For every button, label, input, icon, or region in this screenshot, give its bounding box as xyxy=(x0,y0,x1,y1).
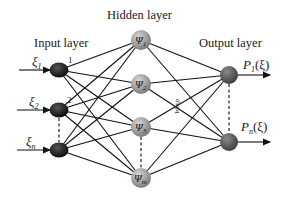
input-symbol-1: ξ1 xyxy=(32,54,42,71)
output-label-n: Pn(ξ) xyxy=(240,119,267,136)
output-label-1: P1(ξ) xyxy=(242,57,269,74)
weight-label: Wexp xyxy=(173,99,181,114)
hidden-node-m: Ψm xyxy=(131,168,151,188)
input-index-2: 2 xyxy=(67,95,72,105)
output-node-1 xyxy=(220,66,238,84)
output-layer-title: Output layer xyxy=(199,36,263,50)
hidden-layer-title: Hidden layer xyxy=(107,8,173,22)
input-node-n xyxy=(50,143,69,158)
hidden-node-3: Ψ3 xyxy=(131,117,151,137)
output-node-n xyxy=(220,133,238,151)
hidden-node-2: Ψ2 xyxy=(131,74,151,94)
input-layer-title: Input layer xyxy=(34,36,89,50)
neural-network-diagram: Input layer Hidden layer Output layer 1 … xyxy=(0,0,285,202)
input-node-1 xyxy=(50,63,69,78)
input-symbol-2: ξ2 xyxy=(29,94,39,111)
hidden-output-connections xyxy=(141,40,229,178)
input-index-1: 1 xyxy=(68,55,73,65)
hidden-node-1: Ψ1 xyxy=(131,30,151,50)
input-arrows xyxy=(17,70,50,150)
input-node-2 xyxy=(50,103,69,118)
input-symbol-n: ξn xyxy=(26,134,36,151)
